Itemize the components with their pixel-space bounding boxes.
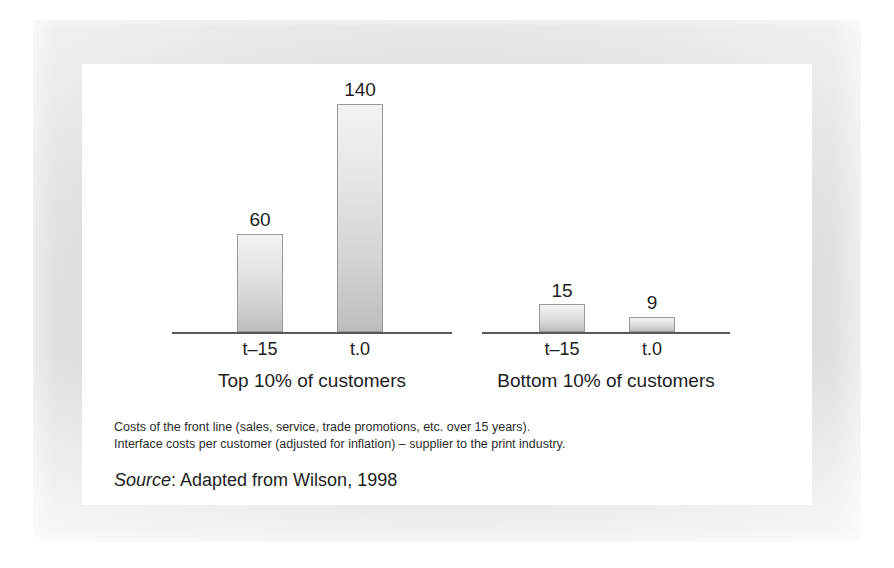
chart-group-bottom10: 15 9 t–15 t.0 Bottom 10% of customers (482, 64, 730, 394)
bar-right-1[interactable] (629, 317, 675, 332)
bar-slot-right-1: 9 (610, 317, 694, 332)
bar-value-right-0: 15 (551, 281, 572, 300)
tick-label-left-1: t.0 (350, 340, 370, 358)
bar-value-left-0: 60 (249, 210, 270, 229)
bar-chart: 60 140 t–15 t.0 Top 10% of customers (82, 64, 812, 394)
figure-notes: Costs of the front line (sales, service,… (114, 419, 794, 491)
bars-left: 60 140 (172, 102, 452, 332)
figure-root: 60 140 t–15 t.0 Top 10% of customers (0, 0, 894, 568)
tick-label-left-0: t–15 (242, 340, 277, 358)
baseline-axis-right (482, 332, 730, 334)
bar-slot-left-1: 140 (314, 104, 406, 332)
source-text: : Adapted from Wilson, 1998 (171, 470, 397, 490)
bar-left-0[interactable] (237, 234, 283, 332)
source-line: Source: Adapted from Wilson, 1998 (114, 470, 794, 491)
bar-slot-left-0: 60 (214, 234, 306, 332)
chart-group-top10: 60 140 t–15 t.0 Top 10% of customers (172, 64, 452, 394)
source-label: Source (114, 470, 171, 490)
note-line-2: Interface costs per customer (adjusted f… (114, 436, 794, 453)
figure-panel: 60 140 t–15 t.0 Top 10% of customers (82, 64, 812, 505)
tick-label-right-0: t–15 (544, 340, 579, 358)
bar-right-0[interactable] (539, 304, 585, 332)
tick-label-right-1: t.0 (642, 340, 662, 358)
bar-left-1[interactable] (337, 104, 383, 332)
bar-value-right-1: 9 (647, 293, 658, 312)
bar-slot-right-0: 15 (520, 304, 604, 332)
group-caption-bottom10: Bottom 10% of customers (482, 370, 730, 392)
bars-right: 15 9 (482, 102, 730, 332)
group-caption-top10: Top 10% of customers (172, 370, 452, 392)
baseline-axis-left (172, 332, 452, 334)
bar-value-left-1: 140 (344, 80, 376, 99)
note-line-1: Costs of the front line (sales, service,… (114, 419, 794, 436)
